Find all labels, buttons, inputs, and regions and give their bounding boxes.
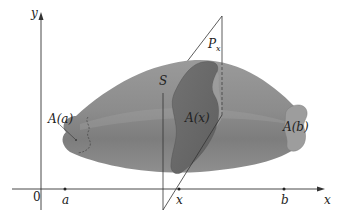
a-label: a (62, 194, 69, 206)
y-axis-label: y (31, 7, 38, 19)
x-axis-arrow-icon (317, 187, 325, 192)
b-label: b (281, 194, 289, 206)
x-point-label: x (176, 194, 183, 206)
area-b-label: A(b) (283, 121, 309, 133)
plane-label-sub: x (216, 44, 221, 53)
area-x-label: A(x) (185, 112, 210, 124)
area-a-label: A(a) (48, 113, 73, 125)
plane-label-main: P (208, 37, 216, 51)
point-x (178, 188, 181, 191)
point-b (283, 188, 286, 191)
point-a (64, 188, 67, 191)
x-axis-label: x (324, 194, 331, 206)
solid-label: S (159, 75, 167, 87)
y-axis-arrow-icon (39, 12, 44, 20)
diagram-canvas (0, 0, 347, 219)
plane-label: Px (208, 38, 221, 53)
origin-label: 0 (33, 191, 41, 203)
solid-cross-section-diagram: y 0 a x b x S Px A(x) A(b) A(a) (0, 0, 347, 219)
y-axis (39, 12, 44, 210)
x-axis (12, 187, 325, 192)
